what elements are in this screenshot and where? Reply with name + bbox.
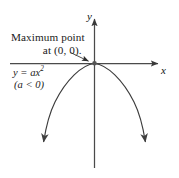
vertex-dot [92, 61, 97, 66]
equation-line2: (a < 0) [13, 79, 44, 91]
parabola-right-branch [95, 64, 146, 143]
annotation-maximum-point-line2: at (0, 0). [11, 44, 85, 57]
equation-exponent: 2 [40, 65, 44, 73]
parabola-figure: Maximum point at (0, 0). y = ax2 (a < 0)… [0, 0, 179, 178]
equation-label: y = ax2 (a < 0) [13, 65, 44, 91]
equation-prefix: y = a [13, 67, 35, 78]
axis-label-y: y [87, 10, 92, 22]
axis-label-x: x [161, 64, 166, 76]
annotation-maximum-point-line1: Maximum point [11, 31, 85, 44]
equation-line1: y = ax2 [13, 65, 44, 78]
annotation-maximum-point: Maximum point at (0, 0). [11, 31, 85, 56]
parabola-left-branch [44, 64, 95, 143]
